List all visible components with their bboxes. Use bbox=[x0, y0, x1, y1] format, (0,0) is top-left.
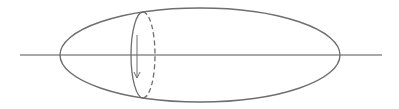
diagram-canvas bbox=[0, 0, 399, 109]
ellipsoid-diagram bbox=[0, 0, 399, 109]
arrow-down-icon bbox=[134, 35, 140, 78]
